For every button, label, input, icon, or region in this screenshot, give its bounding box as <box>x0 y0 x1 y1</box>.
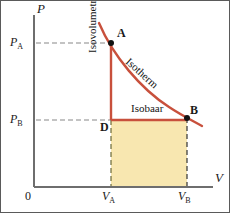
x-axis-label: V <box>215 171 223 184</box>
y-tick-label-pa: PA <box>10 36 23 51</box>
x-tick-vb-sub: B <box>185 196 190 205</box>
origin-label: 0 <box>25 190 31 202</box>
process-label-isobaric: Isobaar <box>131 103 163 114</box>
point-label-b: B <box>190 104 198 116</box>
work-area-shading <box>111 120 187 187</box>
x-tick-va-sub: A <box>109 196 115 205</box>
y-axis-label: P <box>37 2 45 15</box>
point-marker-a <box>108 40 114 46</box>
y-tick-pa-sub: A <box>17 42 23 51</box>
x-tick-label-vb: VB <box>178 190 191 205</box>
process-label-isovolumetric: Isovolumetrisch <box>87 0 98 53</box>
y-tick-label-pb: PB <box>10 113 23 128</box>
y-tick-pb-sub: B <box>17 119 22 128</box>
point-label-a: A <box>117 27 126 39</box>
pv-diagram-figure: P V 0 PA PB VA VB A B D Isovolumetrisch … <box>0 0 230 213</box>
x-tick-label-va: VA <box>102 190 115 205</box>
point-label-d: D <box>100 121 109 133</box>
